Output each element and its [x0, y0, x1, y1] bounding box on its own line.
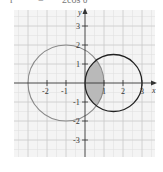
y-tick-label: -3 — [73, 136, 80, 145]
x-tick-label: -1 — [61, 87, 68, 96]
y-axis-label: y — [77, 8, 82, 17]
x-tick-label: 2 — [121, 87, 125, 96]
y-tick-label: -1 — [73, 98, 80, 107]
y-tick-label: 3 — [76, 22, 80, 31]
x-tick-label: -2 — [42, 87, 49, 96]
y-tick-label: 2 — [76, 41, 80, 50]
polar-circles-figure: -2 -1 1 2 3 3 2 1 -1 -2 -3 x y — [0, 0, 163, 172]
x-tick-label: 3 — [140, 87, 144, 96]
x-tick-label: 1 — [102, 87, 106, 96]
x-axis-label: x — [151, 86, 156, 95]
y-tick-label: -2 — [73, 117, 80, 126]
y-tick-label: 1 — [76, 60, 80, 69]
